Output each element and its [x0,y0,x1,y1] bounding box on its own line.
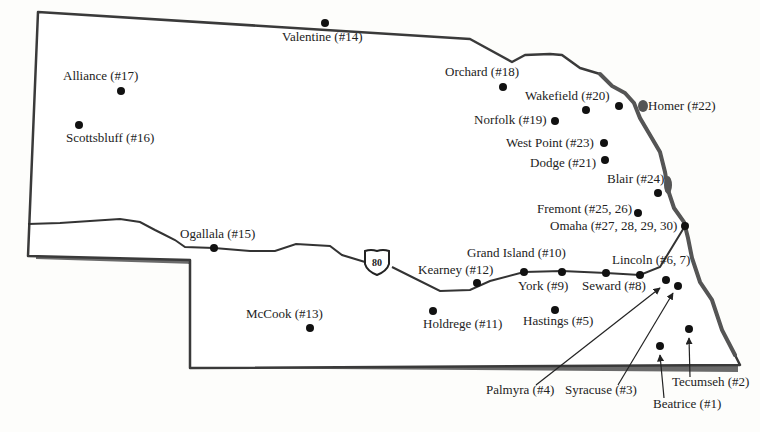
nebraska-map: 80 Beatrice (#1)Tecumseh (#2)Syracuse (#… [0,0,760,432]
city-label: Palmyra (#4) [486,382,554,397]
city-dot-icon[interactable] [473,279,481,287]
city-dot-icon[interactable] [602,269,610,277]
city-label: Orchard (#18) [445,64,519,79]
city-label: Kearney (#12) [418,262,493,277]
city-valentine[interactable]: Valentine (#14) [282,19,363,44]
river-widening [664,176,672,194]
city-label: West Point (#23) [506,135,594,150]
city-dot-icon[interactable] [681,222,689,230]
city-dot-icon[interactable] [429,307,437,315]
city-label: Alliance (#17) [63,68,138,83]
city-dot-icon[interactable] [662,276,670,284]
city-dot-icon[interactable] [615,102,623,110]
city-dot-icon[interactable] [600,139,608,147]
city-label: Norfolk (#19) [474,112,547,127]
city-label: Wakefield (#20) [525,88,610,103]
city-label: Scottsbluff (#16) [66,130,154,145]
city-label: McCook (#13) [246,306,323,321]
city-label: Fremont (#25, 26) [537,201,632,216]
city-west-point[interactable]: West Point (#23) [506,135,608,150]
city-label: Ogallala (#15) [180,226,255,241]
river-widening [638,100,648,112]
state-outline [28,12,740,368]
city-label: Beatrice (#1) [653,396,721,411]
city-dot-icon[interactable] [674,282,682,290]
city-dot-icon[interactable] [601,156,609,164]
city-dot-icon[interactable] [520,268,528,276]
city-dot-icon[interactable] [499,83,507,91]
city-dot-icon[interactable] [654,189,662,197]
city-label: Dodge (#21) [530,155,596,170]
city-dot-icon[interactable] [551,117,559,125]
city-dot-icon[interactable] [321,19,329,27]
city-label: Tecumseh (#2) [672,374,749,389]
city-label: Valentine (#14) [282,29,363,44]
city-dot-icon[interactable] [117,87,125,95]
city-label: Omaha (#27, 28, 29, 30) [550,218,677,233]
city-label: Homer (#22) [648,98,716,113]
city-dot-icon[interactable] [685,325,693,333]
city-dot-icon[interactable] [582,106,590,114]
city-label: Grand Island (#10) [467,245,566,260]
city-fremont[interactable]: Fremont (#25, 26) [537,201,642,217]
city-dot-icon[interactable] [306,324,314,332]
city-dot-icon[interactable] [75,121,83,129]
city-dot-icon[interactable] [656,342,664,350]
city-dot-icon[interactable] [210,244,218,252]
city-label: Blair (#24) [607,171,664,186]
city-label: York (#9) [518,278,568,293]
city-label: Lincoln (#6, 7) [612,252,690,267]
city-label: Seward (#8) [582,278,646,293]
city-label: Syracuse (#3) [565,382,637,397]
city-label: Holdrege (#11) [423,316,502,331]
highway-shield-label: 80 [372,257,382,268]
city-dot-icon[interactable] [634,209,642,217]
city-dot-icon[interactable] [558,268,566,276]
city-label: Hastings (#5) [523,313,593,328]
city-omaha[interactable]: Omaha (#27, 28, 29, 30) [550,218,689,233]
city-norfolk[interactable]: Norfolk (#19) [474,112,559,127]
